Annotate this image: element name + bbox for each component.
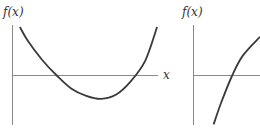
right-y-axis-label: f(x)	[181, 5, 203, 19]
right-graph: f(x)	[181, 5, 260, 125]
left-graph: f(x) x	[2, 5, 170, 125]
function-graphs: f(x) x f(x)	[0, 0, 260, 129]
left-y-axis-label: f(x)	[2, 5, 24, 19]
left-curve-parabola	[20, 27, 157, 99]
right-curve-increasing	[214, 37, 260, 125]
left-x-axis-label: x	[163, 68, 170, 82]
